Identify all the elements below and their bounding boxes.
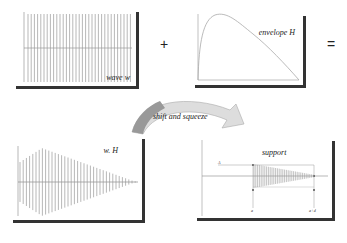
envelope-label: envelope H (259, 28, 295, 37)
equals-sign: = (327, 36, 335, 52)
marker-A: A (218, 160, 220, 165)
envelope-plot (193, 12, 303, 85)
marker-a-plus-d: a+d (309, 208, 316, 213)
wave-panel: wave w (14, 8, 136, 86)
product-panel: w. H (14, 142, 142, 220)
support-panel: support a a+d A (198, 138, 332, 218)
envelope-panel: envelope H (193, 12, 303, 85)
wave-label: wave w (106, 73, 130, 82)
support-label: support (262, 148, 286, 157)
plus-sign: + (160, 36, 168, 52)
product-plot (14, 142, 142, 220)
product-label: w. H (103, 146, 118, 155)
arrow-label: shift and squeeze (153, 112, 208, 121)
marker-a: a (251, 208, 253, 213)
